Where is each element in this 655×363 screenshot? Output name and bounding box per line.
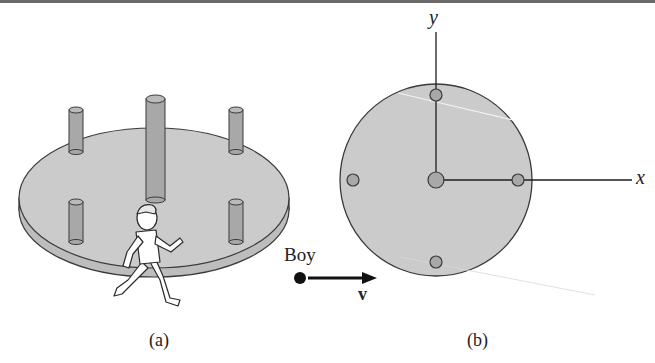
post-top [430,89,442,101]
post-bottom [430,256,442,268]
post-left [347,174,359,186]
post-front-right [229,199,243,245]
caption-b: (b) [467,330,488,351]
post-center [146,95,165,203]
y-axis-label: y [429,6,438,29]
velocity-label: v [358,284,367,305]
caption-a: (a) [149,330,169,351]
boy-label: Boy [284,244,316,266]
x-axis-label: x [636,166,645,189]
post-front-left [69,199,83,245]
post-back-right [229,107,243,155]
boy-velocity-arrow [294,272,377,284]
post-center [428,172,444,188]
post-back-left [69,107,83,155]
platform-b-top-view [340,84,595,295]
figure-canvas [0,0,655,363]
post-right [512,174,524,186]
